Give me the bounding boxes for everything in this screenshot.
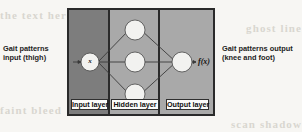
network-diagram: x f(x) Input layer Hidden layer Output l… bbox=[67, 8, 215, 116]
input-layer-tag: Input layer bbox=[71, 99, 108, 110]
output-layer-tag: Output layer bbox=[166, 99, 209, 110]
hidden-layer-tag: Hidden layer bbox=[111, 99, 159, 110]
scanned-figure-page: the text here ghost line faint bleed sca… bbox=[0, 0, 302, 132]
hidden-node-2 bbox=[125, 52, 145, 72]
scan-ghost-text: scan shadow bbox=[0, 118, 302, 130]
input-arrow bbox=[73, 61, 81, 64]
output-caption: Gait patterns output (knee and foot) bbox=[222, 44, 300, 62]
input-to-hidden-edges bbox=[98, 30, 129, 94]
output-node bbox=[172, 52, 192, 72]
hidden-to-output-edges bbox=[141, 30, 176, 94]
input-node-label: x bbox=[83, 57, 97, 65]
input-caption: Gait patterns input (thigh) bbox=[3, 44, 65, 62]
hidden-node-1 bbox=[125, 20, 145, 40]
output-function-label: f(x) bbox=[194, 57, 214, 66]
